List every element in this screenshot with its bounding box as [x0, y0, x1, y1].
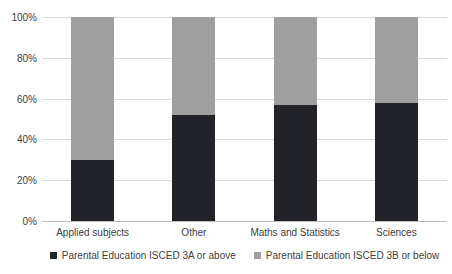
legend-label: Parental Education ISCED 3A or above: [62, 250, 236, 261]
bar-segment-series-2: [375, 17, 418, 103]
bar-column: [42, 17, 143, 221]
y-tick-label: 0%: [23, 216, 37, 227]
legend-item: Parental Education ISCED 3A or above: [50, 250, 236, 261]
stacked-bar-chart: 0%20%40%60%80%100% Applied subjectsOther…: [0, 0, 452, 274]
x-axis-labels: Applied subjectsOtherMaths and Statistic…: [42, 227, 447, 238]
bar-column: [346, 17, 447, 221]
plot-area: [42, 17, 447, 221]
bar-segment-series-1: [71, 160, 114, 221]
y-tick-label: 60%: [17, 93, 37, 104]
x-tick-label: Other: [143, 227, 244, 238]
y-axis-labels: 0%20%40%60%80%100%: [0, 17, 37, 221]
x-tick-label: Applied subjects: [42, 227, 143, 238]
bar-segment-series-1: [274, 105, 317, 221]
stacked-bar: [274, 17, 317, 221]
x-tick-label: Maths and Statistics: [245, 227, 346, 238]
x-axis-line: [42, 221, 447, 222]
legend-label: Parental Education ISCED 3B or below: [266, 250, 439, 261]
bars: [42, 17, 447, 221]
legend-swatch-icon: [254, 252, 261, 259]
bar-segment-series-1: [375, 103, 418, 221]
stacked-bar: [375, 17, 418, 221]
bar-column: [143, 17, 244, 221]
stacked-bar: [172, 17, 215, 221]
bar-segment-series-2: [274, 17, 317, 105]
bar-column: [245, 17, 346, 221]
bar-segment-series-2: [172, 17, 215, 115]
y-tick-label: 80%: [17, 52, 37, 63]
x-tick-label: Sciences: [346, 227, 447, 238]
legend-item: Parental Education ISCED 3B or below: [254, 250, 439, 261]
y-tick-label: 40%: [17, 134, 37, 145]
bar-segment-series-2: [71, 17, 114, 160]
bar-segment-series-1: [172, 115, 215, 221]
legend-swatch-icon: [50, 252, 57, 259]
legend: Parental Education ISCED 3A or abovePare…: [42, 250, 447, 261]
y-tick-label: 100%: [11, 12, 37, 23]
y-tick-label: 20%: [17, 175, 37, 186]
stacked-bar: [71, 17, 114, 221]
